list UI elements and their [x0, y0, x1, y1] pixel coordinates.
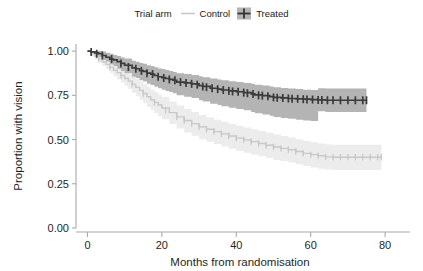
legend-label-treated: Treated [256, 8, 288, 19]
x-tick-label: 80 [379, 239, 391, 251]
x-tick-label: 0 [84, 239, 90, 251]
line-key-icon [180, 7, 196, 20]
plot-canvas: 0.000.250.500.751.00020406080 Proportion… [0, 0, 423, 271]
y-tick-label: 1.00 [48, 45, 69, 57]
y-tick-label: 0.25 [48, 178, 69, 190]
y-tick-label: 0.75 [48, 89, 69, 101]
y-tick-label: 0.50 [48, 134, 69, 146]
x-tick-label: 40 [230, 239, 242, 251]
chart-legend: Trial arm Control Treated [0, 7, 423, 20]
confidence-bands [87, 51, 381, 170]
plus-key-icon [236, 7, 252, 20]
x-axis-title: Months from randomisation [170, 256, 309, 268]
legend-entry-control[interactable]: Control [180, 7, 231, 20]
y-tick-label: 0.00 [48, 222, 69, 234]
x-tick-label: 60 [305, 239, 317, 251]
legend-title: Trial arm [134, 8, 171, 19]
kaplan-meier-figure: Trial arm Control Treated 0 [0, 0, 423, 271]
x-tick-label: 20 [156, 239, 168, 251]
y-axis-title: Proportion with vision [12, 81, 24, 190]
legend-entry-treated[interactable]: Treated [236, 7, 288, 20]
legend-label-control: Control [200, 8, 231, 19]
